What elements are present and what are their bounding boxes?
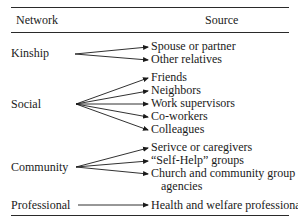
source-item-continued: agencies xyxy=(161,180,202,193)
bottom-rule xyxy=(11,215,289,216)
network-professional: Professional xyxy=(11,199,70,212)
source-item: Other relatives xyxy=(151,53,222,66)
arrow-community-church xyxy=(76,167,148,174)
arrow-social-neighbors xyxy=(76,91,148,104)
network-community: Community xyxy=(11,161,68,174)
arrow-connectors xyxy=(0,0,298,221)
arrow-kinship-relatives xyxy=(75,54,148,60)
arrow-social-coworkers xyxy=(76,104,148,117)
arrow-kinship-spouse xyxy=(75,47,148,54)
arrow-social-friends xyxy=(76,78,148,104)
network-kinship: Kinship xyxy=(11,47,49,60)
network-social: Social xyxy=(11,98,41,111)
source-item: Health and welfare professionals xyxy=(151,199,298,212)
arrow-social-colleagues xyxy=(76,104,148,130)
source-item: Colleagues xyxy=(151,123,204,136)
